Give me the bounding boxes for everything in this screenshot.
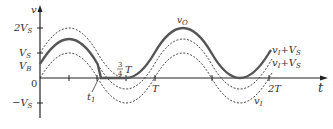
waveform-diagram: v t 2VS VS VB 0 −VS t1 3 4 T T 2T vO vI+… [0, 0, 333, 129]
y-axis-arrow-icon [38, 5, 43, 12]
label-vo: vO [177, 15, 188, 27]
tick-label-zero: 0 [31, 78, 37, 89]
fraction-denominator: 4 [118, 70, 123, 78]
label-vi: vI [254, 95, 263, 108]
label-vi-plus-vb: vI+VS [272, 57, 301, 70]
fraction-numerator: 3 [118, 61, 122, 69]
label-vi-plus-vs: vI+VS [272, 44, 301, 57]
tick-label-three-quarter-t: T [125, 64, 133, 75]
curve-vi-plus-vb [98, 39, 272, 89]
tick-label-t1: t1 [87, 91, 96, 104]
y-axis-label: v [31, 4, 37, 15]
tick-label-vs: VS [19, 47, 31, 60]
curve-vo [40, 28, 271, 78]
t1-pointer [92, 80, 98, 92]
tick-label-neg-vs: −VS [12, 97, 33, 110]
curve-vi-plus-vs [40, 28, 155, 78]
tick-label-vb: VB [19, 60, 31, 73]
tick-label-2vs: 2VS [13, 22, 33, 35]
tick-label-t: T [152, 83, 160, 94]
tick-label-2t: 2T [267, 83, 282, 94]
x-axis-label: t [318, 80, 324, 95]
labels: v t 2VS VS VB 0 −VS t1 3 4 T T 2T vO vI+… [12, 4, 324, 110]
